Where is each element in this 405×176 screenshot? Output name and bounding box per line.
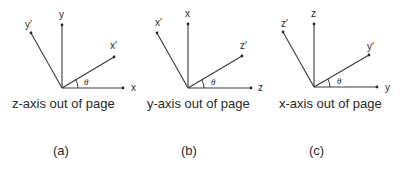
axis-label-rotated-vertical: y′ [25, 19, 32, 30]
panel-caption: z-axis out of page [12, 96, 115, 111]
panel-caption: y-axis out of page [147, 96, 250, 111]
axis-rotated-horizontal-line [314, 55, 369, 87]
axis-label-vertical: y [59, 9, 64, 20]
angle-arc [202, 80, 204, 88]
subfigure-label: (c) [309, 143, 324, 158]
theta-label: θ [337, 76, 342, 86]
panel-c: yzy′z′θx-axis out of page(c) [279, 8, 390, 158]
axis-label-horizontal: x [131, 82, 136, 93]
axis-end-dot-icon [368, 54, 371, 57]
angle-arc [328, 79, 330, 87]
axis-label-rotated-horizontal: x′ [110, 40, 117, 51]
axis-end-dot-icon [241, 55, 244, 58]
axis-end-dot-icon [313, 23, 316, 26]
axis-end-dot-icon [282, 31, 285, 34]
subfigure-label: (b) [181, 143, 197, 158]
axis-end-dot-icon [30, 32, 33, 35]
panel-a: xyx′y′θz-axis out of page(a) [12, 9, 136, 158]
axis-end-dot-icon [376, 86, 379, 89]
axis-label-horizontal: z [258, 82, 263, 93]
theta-label: θ [211, 77, 216, 87]
axis-label-horizontal: y [385, 82, 390, 93]
axis-rotated-vertical-line [283, 32, 314, 87]
panel-caption: x-axis out of page [279, 96, 382, 111]
panel-b: zxz′x′θy-axis out of page(b) [147, 8, 263, 158]
axis-end-dot-icon [122, 87, 125, 90]
subfigure-label: (a) [53, 143, 69, 158]
axis-label-rotated-horizontal: z′ [240, 40, 247, 51]
angle-arc [76, 80, 78, 88]
axis-end-dot-icon [156, 32, 159, 35]
axis-end-dot-icon [113, 56, 116, 59]
axis-rotated-vertical-line [157, 33, 188, 88]
axis-label-vertical: x [185, 8, 190, 19]
axis-end-dot-icon [250, 87, 253, 90]
axis-label-rotated-vertical: x′ [155, 17, 162, 28]
axis-end-dot-icon [187, 23, 190, 26]
axis-label-vertical: z [311, 8, 316, 19]
theta-label: θ [84, 77, 89, 87]
axis-rotated-vertical-line [31, 33, 62, 88]
axis-end-dot-icon [61, 24, 64, 27]
rotation-diagrams: xyx′y′θz-axis out of page(a)zxz′x′θy-axi… [0, 0, 405, 176]
axis-label-rotated-vertical: z′ [281, 18, 288, 29]
axis-label-rotated-horizontal: y′ [367, 41, 374, 52]
